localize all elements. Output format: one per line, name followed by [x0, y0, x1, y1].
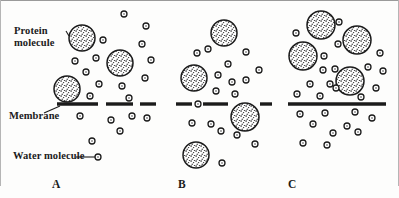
- water-molecule-c-48: [373, 85, 379, 91]
- water-center-dot: [141, 43, 142, 44]
- water-center-dot: [231, 81, 232, 82]
- water-center-dot: [79, 115, 80, 116]
- water-molecule-c-44: [365, 64, 371, 70]
- water-molecule-b-29: [232, 91, 238, 97]
- water-center-dot: [207, 48, 208, 49]
- water-center-dot: [128, 97, 129, 98]
- water-molecule-c-54: [322, 110, 328, 116]
- water-molecule-a-15: [129, 113, 135, 119]
- water-molecule-a-17: [117, 128, 123, 134]
- water-center-dot: [326, 144, 327, 145]
- water-center-dot: [191, 122, 192, 123]
- water-center-dot: [98, 83, 99, 84]
- water-center-dot: [234, 93, 235, 94]
- water-center-dot: [302, 142, 303, 143]
- water-molecule-c-43: [332, 66, 338, 72]
- water-molecule-c-62: [324, 142, 330, 148]
- water-molecule-a-11: [87, 93, 93, 99]
- water-molecule-a-6: [148, 57, 154, 63]
- water-center-dot: [221, 162, 222, 163]
- water-molecule-a-14: [108, 117, 114, 123]
- water-molecule-b-36: [219, 160, 225, 166]
- water-molecule-label: Water molecule: [13, 150, 84, 161]
- water-center-dot: [227, 63, 228, 64]
- water-center-dot: [334, 68, 335, 69]
- water-molecule-c-40: [321, 53, 327, 59]
- protein-molecule-b-4: [181, 65, 207, 91]
- protein-molecule-c-8: [343, 26, 371, 54]
- water-molecule-b-27: [243, 77, 249, 83]
- water-molecule-b-25: [256, 67, 262, 73]
- water-center-dot: [85, 71, 86, 72]
- membrane-permeability-figure: Protein molecule Membrane Water molecule…: [0, 0, 399, 198]
- water-center-dot: [217, 74, 218, 75]
- water-molecule-c-47: [327, 81, 333, 87]
- water-molecule-c-41: [377, 50, 383, 56]
- water-center-dot: [91, 140, 92, 141]
- water-center-dot: [382, 70, 383, 71]
- water-center-dot: [360, 96, 361, 97]
- water-molecule-a-1: [143, 23, 149, 29]
- water-center-dot: [354, 111, 355, 112]
- protein-molecule-b-6: [183, 142, 209, 168]
- water-molecule-c-42: [320, 67, 326, 73]
- water-molecule-a-12: [126, 95, 132, 101]
- water-molecule-a-4: [72, 58, 78, 64]
- water-center-dot: [299, 113, 300, 114]
- water-molecule-a-8: [142, 75, 148, 81]
- water-center-dot: [312, 123, 313, 124]
- water-center-dot: [367, 66, 368, 67]
- water-center-dot: [110, 119, 111, 120]
- protein-label-line2: molecule: [14, 37, 54, 48]
- water-center-dot: [97, 156, 98, 157]
- water-center-dot: [74, 60, 75, 61]
- water-molecule-c-38: [336, 19, 342, 25]
- protein-molecule-c-7: [307, 11, 335, 39]
- water-molecule-a-18: [89, 138, 95, 144]
- water-molecule-a-5: [93, 55, 99, 61]
- panel-letter-c: C: [288, 178, 296, 190]
- protein-label-leader-line: [66, 31, 69, 36]
- protein-molecule-a-2: [54, 76, 80, 102]
- water-molecule-b-20: [194, 50, 200, 56]
- water-center-dot: [102, 39, 103, 40]
- protein-molecule-a-0: [69, 25, 95, 51]
- protein-molecule-b-5: [231, 103, 259, 131]
- water-center-dot: [95, 57, 96, 58]
- protein-molecule-c-9: [289, 42, 317, 70]
- water-molecule-c-59: [330, 130, 336, 136]
- water-center-dot: [121, 85, 122, 86]
- water-center-dot: [89, 95, 90, 96]
- water-center-dot: [245, 51, 246, 52]
- water-center-dot: [375, 87, 376, 88]
- water-molecule-b-24: [215, 72, 221, 78]
- water-molecule-c-51: [333, 85, 339, 91]
- water-center-dot: [309, 83, 310, 84]
- water-center-dot: [324, 112, 325, 113]
- water-center-dot: [245, 79, 246, 80]
- water-center-dot: [379, 52, 380, 53]
- water-molecule-a-0: [121, 11, 127, 17]
- water-molecule-b-22: [243, 49, 249, 55]
- water-molecule-b-28: [213, 88, 219, 94]
- water-center-dot: [335, 87, 336, 88]
- water-molecule-b-32: [208, 121, 214, 127]
- panel-letter-a: A: [52, 178, 60, 190]
- water-center-dot: [146, 117, 147, 118]
- panel-letter-b: B: [178, 178, 186, 190]
- water-center-dot: [296, 93, 297, 94]
- water-molecule-c-56: [369, 115, 375, 121]
- water-center-dot: [346, 125, 347, 126]
- water-center-dot: [254, 143, 255, 144]
- water-center-dot: [220, 130, 221, 131]
- water-molecule-c-60: [355, 129, 361, 135]
- protein-molecule-c-10: [336, 67, 364, 95]
- water-molecule-b-31: [189, 120, 195, 126]
- water-molecule-a-3: [139, 41, 145, 47]
- water-molecule-b-33: [218, 128, 224, 134]
- water-molecule-a-10: [119, 83, 125, 89]
- protein-molecule-label: Protein molecule: [14, 25, 54, 48]
- water-molecule-c-39: [335, 41, 341, 47]
- water-center-dot: [119, 130, 120, 131]
- water-molecule-b-35: [252, 141, 258, 147]
